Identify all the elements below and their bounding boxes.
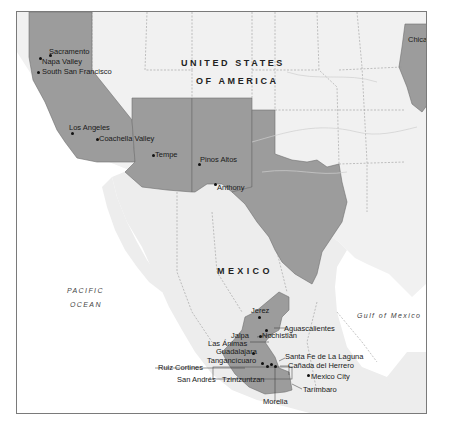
place-dot-los-angeles [71, 132, 74, 135]
place-label-nochistlan: Nochistlán [262, 332, 297, 340]
place-dot-jerez [258, 316, 261, 319]
place-label-jerez: Jerez [251, 307, 269, 315]
place-dot-south-san-francisco [37, 71, 40, 74]
map-frame: UNITED STATES OF AMERICA MEXICO PACIFIC … [16, 11, 427, 414]
region-new-mexico [192, 98, 252, 192]
country-label-mexico: MEXICO [217, 266, 273, 276]
water-label-pacific-line1: PACIFIC [67, 287, 104, 294]
place-dot-guadalajara [252, 352, 255, 355]
place-dot-cluster-2 [266, 365, 269, 368]
place-label-south-san-francisco: South San Francisco [42, 68, 112, 76]
place-label-san-andres: San Andrés [177, 376, 216, 384]
place-dot-cluster-3 [270, 363, 273, 366]
place-dot-mexico-city [307, 374, 310, 377]
place-label-chicago: Chicago [408, 36, 427, 44]
place-label-coachella-valley: Coachella Valley [99, 135, 154, 143]
country-label-usa-line2: OF AMERICA [196, 76, 279, 86]
place-label-tangancicuaro: Tangancícuaro [207, 357, 256, 365]
water-label-pacific-line2: OCEAN [70, 301, 102, 308]
place-label-los-angeles: Los Angeles [69, 124, 110, 132]
place-label-mexico-city: Mexico City [311, 373, 350, 381]
place-label-morelia: Morelia [263, 398, 288, 406]
place-label-guadalajara: Guadalajara [216, 348, 257, 356]
place-label-sacramento: Sacramento [49, 48, 89, 56]
country-label-usa-line1: UNITED STATES [181, 58, 285, 68]
water-label-gulf: Gulf of Mexico [357, 312, 421, 319]
place-label-tzintzuntzan: Tzintzuntzan [222, 376, 265, 384]
place-label-santa-fe-de-la-laguna: Santa Fe de La Laguna [285, 353, 363, 361]
place-label-tarimbaro: Tarímbaro [303, 386, 337, 394]
region-arizona [125, 98, 192, 192]
place-label-pinos-altos: Pinos Altos [200, 156, 237, 164]
place-dot-morelia [274, 365, 277, 368]
place-label-canada-del-herrero: Cañada del Herrero [288, 362, 354, 370]
place-label-tempe: Tempe [155, 151, 178, 159]
place-label-anthony: Anthony [217, 184, 245, 192]
place-label-ruiz-cortines: Ruiz Cortines [158, 364, 203, 372]
place-label-napa-valley: Napa Valley [42, 58, 82, 66]
place-dot-cluster-1 [261, 362, 264, 365]
